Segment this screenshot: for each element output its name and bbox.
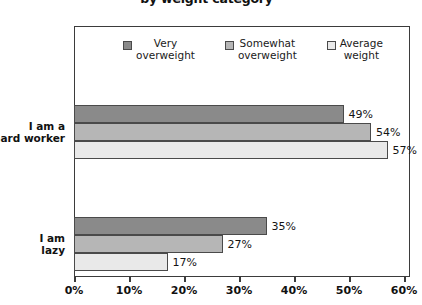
chart-title: by weight category xyxy=(0,0,413,6)
x-axis-tick xyxy=(184,277,186,282)
bar-row: 49% xyxy=(74,105,410,123)
x-axis-tick-label: 10% xyxy=(107,284,151,297)
x-axis-tick xyxy=(129,277,131,282)
bar[interactable] xyxy=(74,123,371,141)
bar-value-label: 57% xyxy=(393,144,417,157)
category-label: I am a hard worker xyxy=(0,120,65,144)
plot-area: I am a hard worker49%54%57%I am lazy35%2… xyxy=(74,26,410,277)
x-axis-tick xyxy=(294,277,296,282)
bar[interactable] xyxy=(74,217,267,235)
bar-value-label: 17% xyxy=(173,256,197,269)
x-axis-tick-label: 0% xyxy=(52,284,96,297)
x-axis-tick xyxy=(404,277,406,282)
bar[interactable] xyxy=(74,141,388,159)
bar-group: 35%27%17% xyxy=(74,217,410,271)
bar-value-label: 27% xyxy=(228,238,252,251)
bar[interactable] xyxy=(74,105,344,123)
x-axis-tick xyxy=(239,277,241,282)
bar[interactable] xyxy=(74,253,168,271)
bar-value-label: 49% xyxy=(349,108,373,121)
x-axis-tick xyxy=(349,277,351,282)
x-axis-tick-label: 40% xyxy=(272,284,316,297)
x-axis: 0%10%20%30%40%50%60% xyxy=(74,277,410,305)
x-axis-tick-label: 20% xyxy=(162,284,206,297)
x-axis-tick-label: 30% xyxy=(217,284,261,297)
category-label: I am lazy xyxy=(0,232,65,256)
x-axis-tick-label: 50% xyxy=(327,284,371,297)
bar-row: 27% xyxy=(74,235,410,253)
bar-row: 57% xyxy=(74,141,410,159)
bar-group: 49%54%57% xyxy=(74,105,410,159)
bar-value-label: 35% xyxy=(272,220,296,233)
bar-row: 35% xyxy=(74,217,410,235)
bar-value-label: 54% xyxy=(376,126,400,139)
bar[interactable] xyxy=(74,235,223,253)
x-axis-tick xyxy=(74,277,76,282)
bar-row: 54% xyxy=(74,123,410,141)
x-axis-tick-label: 60% xyxy=(382,284,422,297)
bar-row: 17% xyxy=(74,253,410,271)
